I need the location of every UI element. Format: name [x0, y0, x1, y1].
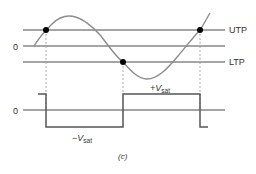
zero-label-bottom: 0 — [13, 106, 18, 116]
negative-saturation-label: −Vsat — [72, 133, 92, 144]
ltp-label: LTP — [229, 57, 245, 67]
utp-label: UTP — [229, 25, 247, 35]
schmitt-trigger-waveform-diagram: 0 UTP LTP 0 +Vsat −Vsat (c) — [0, 0, 256, 174]
positive-saturation-label: +Vsat — [150, 83, 170, 94]
zero-label-top: 0 — [13, 42, 18, 52]
utp-crossing-dot-1 — [43, 27, 49, 33]
utp-crossing-dot-2 — [197, 27, 203, 33]
ltp-crossing-dot — [120, 59, 126, 65]
figure-caption: (c) — [118, 152, 128, 161]
